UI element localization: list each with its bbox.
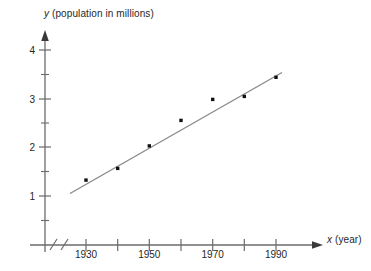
- y-tick-label: 4: [29, 45, 35, 56]
- y-tick-label: 3: [29, 94, 35, 105]
- x-tick-label: 1930: [75, 249, 97, 260]
- x-axis-units: (year): [335, 234, 362, 245]
- data-point: [116, 167, 119, 170]
- x-axis-title: x (year): [327, 234, 362, 245]
- trend-line: [70, 73, 282, 194]
- y-axis-title: y (population in millions): [44, 8, 154, 19]
- chart-figure: y (population in millions) x (year) 4 3 …: [0, 0, 371, 271]
- y-axis-arrowhead: [41, 30, 49, 41]
- data-point: [243, 95, 246, 98]
- y-axis-units: (population in millions): [52, 8, 154, 19]
- data-point: [179, 119, 182, 122]
- y-tick-label: 2: [29, 142, 35, 153]
- data-point: [211, 98, 214, 101]
- scatter-plot-canvas: [0, 0, 371, 271]
- x-tick-label: 1970: [202, 249, 224, 260]
- x-axis-arrowhead: [312, 241, 323, 249]
- x-tick-label: 1990: [265, 249, 287, 260]
- x-tick-label: 1950: [138, 249, 160, 260]
- y-tick-label: 1: [29, 191, 35, 202]
- data-point: [84, 178, 87, 181]
- data-point: [274, 76, 277, 79]
- data-point: [148, 144, 151, 147]
